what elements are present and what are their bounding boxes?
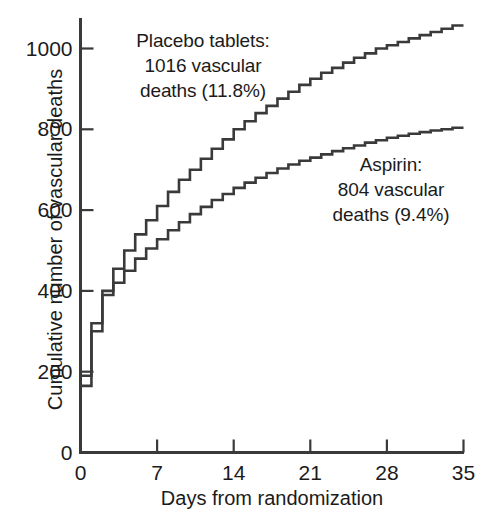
x-axis-title: Days from randomization	[80, 487, 464, 510]
annotation-placebo-line2: 1016 vascular	[108, 53, 298, 78]
x-tick-label: 14	[204, 462, 264, 483]
x-tick-label: 28	[357, 462, 417, 483]
annotation-aspirin-line2: 804 vascular	[296, 177, 486, 202]
y-tick-label: 0	[0, 442, 73, 463]
annotation-placebo-line1: Placebo tablets:	[108, 28, 298, 53]
x-tick-label: 7	[127, 462, 187, 483]
annotation-placebo: Placebo tablets: 1016 vascular deaths (1…	[108, 28, 298, 103]
annotation-placebo-line3: deaths (11.8%)	[108, 78, 298, 103]
x-tick-label: 21	[280, 462, 340, 483]
annotation-aspirin-line3: deaths (9.4%)	[296, 202, 486, 227]
y-axis-title: Cumulative number of vascular deaths	[44, 40, 67, 440]
x-axis-ticks	[81, 440, 464, 453]
annotation-aspirin-line1: Aspirin:	[296, 152, 486, 177]
y-axis-ticks	[81, 49, 94, 453]
x-tick-label: 0	[51, 462, 111, 483]
annotation-aspirin: Aspirin: 804 vascular deaths (9.4%)	[296, 152, 486, 227]
x-tick-label: 35	[434, 462, 494, 483]
chart-figure: 02004006008001000 0714212835 Placebo tab…	[0, 0, 496, 526]
